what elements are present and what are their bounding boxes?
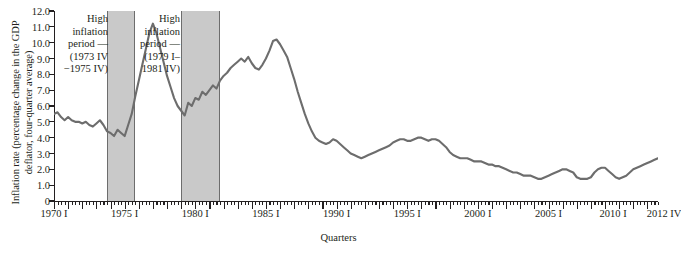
x-tick-minor bbox=[142, 202, 143, 205]
annotation2-line1: High bbox=[131, 13, 180, 26]
x-tick-minor bbox=[121, 202, 122, 205]
x-tick-minor bbox=[213, 202, 214, 205]
x-tick-minor bbox=[513, 202, 514, 205]
x-tick-minor bbox=[425, 202, 426, 205]
x-tick-minor bbox=[432, 202, 433, 205]
x-tick-label: 1985 I bbox=[252, 208, 279, 219]
x-tick-minor bbox=[220, 202, 221, 205]
x-tick-minor bbox=[284, 202, 285, 205]
y-tick-label: 11.0 bbox=[32, 21, 50, 32]
x-tick-minor bbox=[601, 202, 602, 205]
x-tick-minor bbox=[612, 202, 613, 205]
x-tick-minor bbox=[386, 202, 387, 205]
annotation1-line4: (1973 IV bbox=[60, 51, 108, 64]
x-tick-minor bbox=[241, 202, 242, 205]
x-tick-minor bbox=[658, 202, 659, 205]
x-tick-label: 1975 I bbox=[111, 208, 138, 219]
x-tick-minor bbox=[344, 202, 345, 205]
x-tick-minor bbox=[368, 202, 369, 205]
x-tick-minor bbox=[273, 202, 274, 205]
x-tick-minor bbox=[390, 202, 391, 205]
x-tick-minor bbox=[216, 202, 217, 205]
x-tick-minor bbox=[382, 202, 383, 205]
x-tick-minor bbox=[499, 202, 500, 205]
x-tick-minor bbox=[277, 202, 278, 205]
x-tick-minor bbox=[326, 202, 327, 205]
annotation-high-inflation-2: High inflation period — (1979 I– 1981 IV… bbox=[131, 13, 180, 76]
y-tick-label: 10.0 bbox=[32, 37, 50, 48]
x-tick-minor bbox=[481, 202, 482, 205]
x-tick-minor bbox=[467, 202, 468, 205]
x-tick-minor bbox=[651, 202, 652, 205]
x-tick-minor bbox=[171, 202, 172, 205]
x-tick-minor bbox=[234, 202, 235, 205]
x-tick-minor bbox=[397, 202, 398, 205]
x-tick-minor bbox=[644, 202, 645, 205]
x-tick-label: 2012 IV bbox=[647, 208, 681, 219]
x-tick-minor bbox=[630, 202, 631, 205]
x-tick-minor bbox=[89, 202, 90, 205]
x-tick-minor bbox=[58, 202, 59, 205]
x-tick-minor bbox=[174, 202, 175, 205]
x-tick-minor bbox=[262, 202, 263, 205]
x-tick-minor bbox=[248, 202, 249, 205]
x-tick-minor bbox=[347, 202, 348, 205]
x-tick-minor bbox=[375, 202, 376, 205]
x-tick-label: 2000 I bbox=[464, 208, 491, 219]
x-tick-label: 1990 I bbox=[323, 208, 350, 219]
x-tick-minor bbox=[616, 202, 617, 205]
x-tick-minor bbox=[132, 202, 133, 205]
x-tick-minor bbox=[146, 202, 147, 205]
x-tick-minor bbox=[199, 202, 200, 205]
x-tick-minor bbox=[61, 202, 62, 205]
annotation1-line3: period — bbox=[60, 38, 108, 51]
x-tick-minor bbox=[340, 202, 341, 205]
x-tick-minor bbox=[86, 202, 87, 205]
x-tick-minor bbox=[75, 202, 76, 205]
annotation2-line3: period — bbox=[131, 38, 180, 51]
x-tick-minor bbox=[517, 202, 518, 205]
x-tick-minor bbox=[65, 202, 66, 205]
x-tick-minor bbox=[298, 202, 299, 205]
x-tick-minor bbox=[319, 202, 320, 205]
x-tick-minor bbox=[312, 202, 313, 205]
y-tick-label: 12.0 bbox=[32, 6, 50, 17]
x-tick-minor bbox=[107, 202, 108, 205]
x-tick-minor bbox=[372, 202, 373, 205]
x-tick-minor bbox=[315, 202, 316, 205]
annotation-high-inflation-1: High inflation period — (1973 IV −1975 I… bbox=[60, 13, 108, 76]
x-tick-minor bbox=[178, 202, 179, 205]
x-tick-minor bbox=[531, 202, 532, 205]
x-tick-minor bbox=[573, 202, 574, 205]
x-tick-minor bbox=[570, 202, 571, 205]
x-tick-minor bbox=[545, 202, 546, 205]
x-tick-minor bbox=[202, 202, 203, 205]
x-tick-minor bbox=[443, 202, 444, 205]
x-tick-minor bbox=[503, 202, 504, 205]
x-tick-minor bbox=[160, 202, 161, 205]
x-tick-minor bbox=[439, 202, 440, 205]
x-tick-minor bbox=[552, 202, 553, 205]
x-tick-label: 2010 I bbox=[600, 208, 627, 219]
x-tick-minor bbox=[598, 202, 599, 205]
x-tick-minor bbox=[510, 202, 511, 205]
x-tick-minor bbox=[580, 202, 581, 205]
x-axis-title: Quarters bbox=[0, 232, 677, 243]
x-tick-minor bbox=[269, 202, 270, 205]
x-tick-minor bbox=[192, 202, 193, 205]
x-tick-minor bbox=[93, 202, 94, 205]
annotation1-line2: inflation bbox=[60, 26, 108, 39]
x-tick-minor bbox=[594, 202, 595, 205]
x-tick-minor bbox=[446, 202, 447, 205]
annotation1-line1: High bbox=[60, 13, 108, 26]
x-tick-minor bbox=[231, 202, 232, 205]
x-tick-minor bbox=[626, 202, 627, 205]
annotation2-line5: 1981 IV) bbox=[131, 63, 180, 76]
x-tick-minor bbox=[637, 202, 638, 205]
x-tick-minor bbox=[460, 202, 461, 205]
x-tick-minor bbox=[114, 202, 115, 205]
x-tick-label: 1995 I bbox=[394, 208, 421, 219]
x-tick-minor bbox=[185, 202, 186, 205]
x-tick-minor bbox=[418, 202, 419, 205]
